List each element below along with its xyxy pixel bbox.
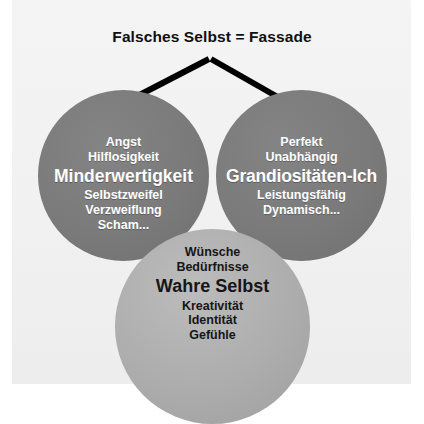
minderwertigkeit-headline: Minderwertigkeit [38, 166, 209, 187]
wahre-selbst-circle: Wünsche Bedürfnisse Wahre Selbst Kreativ… [115, 229, 310, 424]
list-item: Selbstzweifel [38, 188, 209, 203]
list-item: Perfekt [216, 135, 387, 150]
list-item: Bedürfnisse [115, 260, 310, 275]
list-item: Scham... [38, 218, 209, 233]
grandiositaeten-ich-text-list: Perfekt Unabhängig Grandiositäten-Ich Le… [216, 135, 387, 218]
list-item: Angst [38, 135, 209, 150]
list-item: Wünsche [115, 245, 310, 260]
list-item: Verzweiflung [38, 203, 209, 218]
wahre-selbst-text-list: Wünsche Bedürfnisse Wahre Selbst Kreativ… [115, 245, 310, 343]
page-title: Falsches Selbst = Fassade [0, 28, 424, 46]
list-item: Dynamisch... [216, 203, 387, 218]
list-item: Unabhängig [216, 150, 387, 165]
grandiositaeten-ich-headline: Grandiositäten-Ich [216, 166, 387, 187]
minderwertigkeit-text-list: Angst Hilflosigkeit Minderwertigkeit Sel… [38, 135, 209, 232]
list-item: Identität [115, 313, 310, 328]
list-item: Hilflosigkeit [38, 150, 209, 165]
wahre-selbst-headline: Wahre Selbst [115, 276, 310, 297]
list-item: Kreativität [115, 299, 310, 314]
list-item: Gefühle [115, 328, 310, 343]
list-item: Leistungsfähig [216, 188, 387, 203]
